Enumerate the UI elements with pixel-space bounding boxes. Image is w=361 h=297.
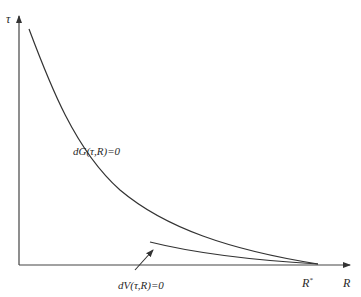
x-axis-label: R <box>343 277 350 289</box>
r-star-superscript: * <box>309 276 313 284</box>
r-star-label: R* <box>302 277 313 289</box>
diagram-canvas <box>0 0 361 297</box>
dV-curve-label: dV(τ,R)=0 <box>118 280 164 291</box>
dV-pointer-arrow <box>135 250 153 270</box>
curve-dV <box>150 242 318 264</box>
dG-curve-label: dG(τ,R)=0 <box>73 146 120 157</box>
y-axis-label: τ <box>6 13 10 25</box>
